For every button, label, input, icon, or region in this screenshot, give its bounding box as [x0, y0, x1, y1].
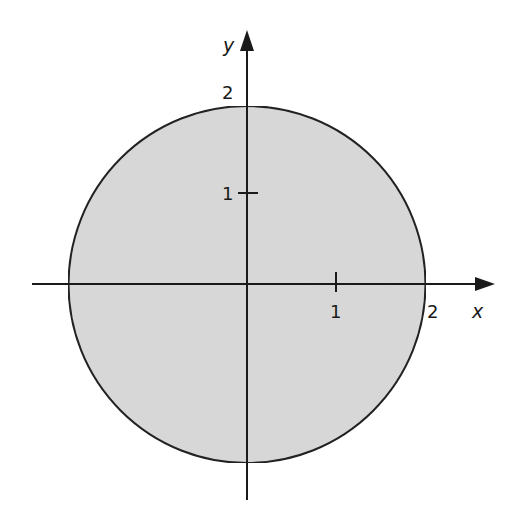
y-axis-arrow-icon: [240, 30, 254, 51]
x-tick-label-2: 2: [427, 301, 438, 322]
x-tick-label-1: 1: [330, 301, 341, 322]
y-axis-label: y: [222, 34, 235, 56]
y-tick-label-1: 1: [222, 183, 233, 204]
x-axis-arrow-icon: [475, 277, 495, 291]
disk-diagram: x y 1 2 1 2: [0, 0, 519, 527]
y-tick-label-2: 2: [222, 82, 233, 103]
x-axis-label: x: [471, 300, 484, 322]
